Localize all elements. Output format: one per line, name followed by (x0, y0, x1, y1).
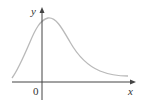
x-axis-label: x (127, 85, 133, 97)
y-axis-label: y (30, 5, 36, 17)
origin-label: 0 (33, 85, 39, 97)
chart: y x 0 (0, 0, 142, 110)
x-axis-arrow-icon (130, 80, 136, 85)
y-axis-arrow-icon (40, 7, 45, 13)
curve (12, 18, 128, 78)
